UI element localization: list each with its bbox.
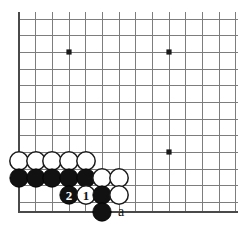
white-stone-f2 — [93, 169, 111, 187]
point-label-a: a — [118, 204, 125, 219]
white-stone-c1 — [43, 152, 61, 170]
white-stone-d1 — [60, 152, 78, 170]
black-stone-c2 — [43, 169, 61, 187]
black-stone-disc — [43, 169, 61, 187]
stone-move-number: 1 — [83, 188, 90, 203]
black-stone-disc — [60, 169, 78, 187]
black-stone-f3 — [93, 186, 111, 204]
go-board-canvas: 21 a — [0, 0, 248, 227]
white-stone-disc — [10, 152, 28, 170]
black-stone-a2 — [10, 169, 28, 187]
white-stone-disc — [43, 152, 61, 170]
black-stone-move-2: 2 — [60, 186, 78, 204]
white-stone-g3 — [110, 186, 128, 204]
white-stone-g2 — [110, 169, 128, 187]
white-stone-disc — [110, 169, 128, 187]
star-point-right-bottom — [166, 149, 171, 154]
star-point-left-top — [66, 49, 71, 54]
white-stone-disc — [93, 169, 111, 187]
star-point-right-top — [166, 49, 171, 54]
white-stone-disc — [77, 152, 95, 170]
black-stone-disc — [10, 169, 28, 187]
stone-move-number: 2 — [66, 188, 73, 203]
white-stone-disc — [60, 152, 78, 170]
white-stone-e1 — [77, 152, 95, 170]
white-stone-a1 — [10, 152, 28, 170]
annotations-layer: a — [118, 204, 125, 219]
go-board-diagram: 21 a — [0, 0, 248, 227]
black-stone-disc — [93, 186, 111, 204]
black-stone-d2 — [60, 169, 78, 187]
black-stone-f4 — [93, 203, 111, 221]
black-stone-disc — [93, 203, 111, 221]
white-stone-disc — [110, 186, 128, 204]
